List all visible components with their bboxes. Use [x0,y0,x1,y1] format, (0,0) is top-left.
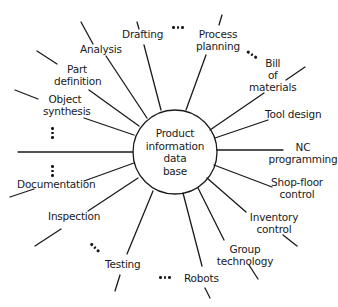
spoke-group-technology [198,188,224,240]
node-part-definition: Part definition [54,63,100,87]
spoke-testing-outer [115,275,120,291]
ellipsis-top [172,26,184,29]
hub-label-line1: Product [140,127,210,140]
node-process-planning: Process planning [196,28,240,52]
node-bill-of-materials: Bill of materials [249,57,297,93]
spoke-inspection-outer [35,229,61,246]
node-group-technology: Group technology [214,243,276,267]
spoke-object-synthesis-outer [15,90,38,99]
ellipsis-bottom [159,276,171,279]
node-testing: Testing [105,258,141,270]
spoke-process-planning-outer [219,15,222,25]
spoke-inspection [88,178,138,211]
hub-label-line4: base [140,165,210,178]
spoke-analysis-outer [81,22,93,44]
spoke-robots [183,193,202,266]
node-nc-programming: NC programming [268,141,338,165]
node-inventory-control: Inventory control [244,211,304,235]
hub-label-line2: information [140,140,210,153]
spoke-inventory-control [207,178,246,212]
spoke-object-synthesis [84,118,134,135]
hub-label-line3: data [140,152,210,165]
spoke-drafting [144,45,161,110]
spoke-documentation-outer [10,189,34,197]
node-analysis: Analysis [80,43,122,55]
node-drafting: Drafting [122,28,163,40]
spoke-testing [127,191,153,254]
spoke-inventory-control-outer [283,235,297,246]
spoke-analysis [106,56,147,118]
node-object-synthesis: Object synthesis [43,93,87,117]
node-shop-floor-control: Shop-floor control [264,176,330,200]
ellipsis-left-lower [51,165,54,179]
node-tool-design: Tool design [265,108,321,120]
spoke-process-planning [186,55,206,110]
node-inspection: Inspection [48,210,100,222]
ellipsis-left-upper [51,127,54,141]
spoke-robots-outer [205,288,210,298]
spoke-tool-design [215,120,268,138]
hub-label: Product information data base [140,127,210,177]
spoke-group-technology-outer [249,265,258,279]
node-documentation: Documentation [17,178,95,190]
node-robots: Robots [184,272,219,284]
